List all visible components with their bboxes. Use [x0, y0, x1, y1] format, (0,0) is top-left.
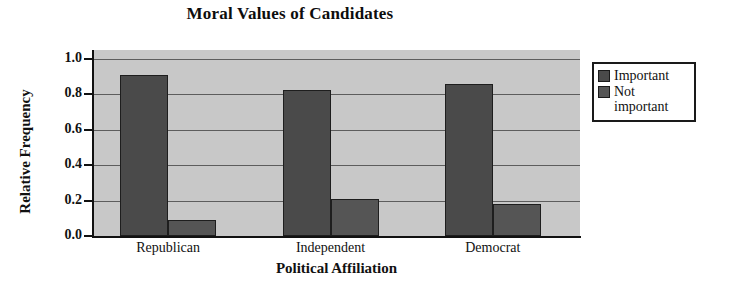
- bar-democrat-not-important: [493, 204, 541, 236]
- y-tick-label-1.0: 1.0: [34, 50, 82, 66]
- x-axis-title: Political Affiliation: [93, 260, 580, 277]
- x-tick-label-republican: Republican: [108, 240, 228, 256]
- bar-republican-important: [120, 75, 168, 236]
- y-tick-label-0.8: 0.8: [34, 85, 82, 101]
- y-tick-mark-0.6: [84, 129, 93, 131]
- chart-figure: Moral Values of Candidates 0.00.20.40.60…: [0, 0, 730, 294]
- bar-independent-important: [283, 90, 331, 236]
- y-axis-title: Relative Frequency: [17, 57, 34, 247]
- chart-title: Moral Values of Candidates: [0, 4, 580, 24]
- legend-swatch-icon: [598, 70, 610, 82]
- legend-label-line-2: important: [614, 99, 668, 114]
- bar-republican-not-important: [168, 220, 216, 236]
- legend-label-line-1: Not: [614, 84, 668, 99]
- y-tick-mark-1.0: [84, 58, 93, 60]
- legend-label: Important: [614, 68, 669, 83]
- chart-legend: ImportantNotimportant: [592, 62, 696, 122]
- legend-item-not-important: Notimportant: [598, 84, 690, 114]
- y-axis-line: [92, 50, 94, 237]
- y-tick-label-0.0: 0.0: [34, 227, 82, 243]
- x-tick-label-independent: Independent: [271, 240, 391, 256]
- plot-area: [93, 50, 580, 236]
- legend-item-important: Important: [598, 68, 690, 83]
- gridline-1.0: [93, 59, 580, 60]
- y-axis-tick-labels: 0.00.20.40.60.81.0: [26, 0, 82, 294]
- y-tick-label-0.2: 0.2: [34, 192, 82, 208]
- y-tick-mark-0.8: [84, 93, 93, 95]
- y-tick-mark-0.2: [84, 200, 93, 202]
- bar-independent-not-important: [331, 199, 379, 236]
- y-tick-mark-0.0: [84, 235, 93, 237]
- legend-label: Notimportant: [614, 84, 668, 114]
- legend-swatch-icon: [598, 86, 610, 98]
- x-tick-label-democrat: Democrat: [433, 240, 553, 256]
- y-tick-mark-0.4: [84, 164, 93, 166]
- bar-democrat-important: [445, 84, 493, 236]
- x-axis-line: [92, 236, 581, 238]
- y-tick-label-0.4: 0.4: [34, 156, 82, 172]
- y-tick-label-0.6: 0.6: [34, 121, 82, 137]
